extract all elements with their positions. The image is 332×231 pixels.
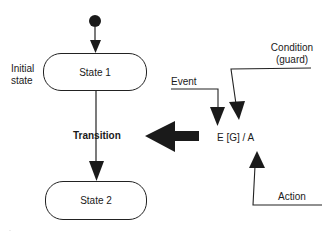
initial-state-label-line1: Initial [11,63,34,75]
state-1-label: State 1 [79,67,111,78]
state-1[interactable]: State 1 [43,53,147,91]
state-2-label: State 2 [80,195,112,206]
initial-state-dot [89,15,101,27]
initial-transition-arrow [90,27,101,53]
initial-state-label: Initial state [11,63,34,87]
condition-label-line2: (guard) [270,54,314,66]
big-pointer-arrow [145,121,199,152]
condition-label: Condition (guard) [270,42,314,66]
event-pointer [171,89,225,126]
transition-expression: E [G] / A [217,132,254,144]
condition-label-line1: Condition [270,42,314,54]
initial-state-label-line2: state [11,75,34,87]
transition-label: Transition [73,130,121,142]
state-2[interactable]: State 2 [45,181,147,220]
event-label: Event [171,76,197,88]
stray-dot [9,230,10,231]
condition-pointer [229,68,311,120]
action-label: Action [278,191,306,203]
